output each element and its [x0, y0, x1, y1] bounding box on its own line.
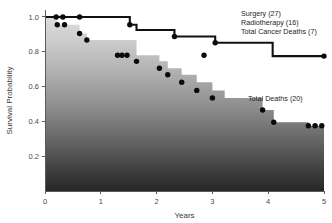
event-marker-dot: [194, 88, 199, 93]
x-tick-label: 0: [43, 197, 47, 206]
x-tick-label: 4: [266, 197, 270, 206]
y-tick-label: 0.8: [29, 47, 39, 56]
event-marker-dot: [260, 107, 265, 112]
annotation-total-deaths: Total Deaths (20): [248, 94, 303, 103]
event-marker-dot: [172, 34, 177, 39]
event-marker-dot: [60, 14, 65, 19]
legend-label-surgery: Surgery (27): [241, 9, 281, 18]
event-marker-dot: [134, 59, 139, 64]
figure-container: 0.20.40.60.81.0 012345 Survival Probabil…: [0, 0, 332, 223]
event-marker-dot: [312, 123, 317, 128]
y-tick-label: 0.4: [29, 117, 39, 126]
event-marker-dot: [77, 14, 82, 19]
y-axis-title: Survival Probability: [5, 66, 14, 134]
event-marker-dot: [306, 123, 311, 128]
x-tick-label: 3: [210, 197, 214, 206]
event-marker-dot: [271, 120, 276, 125]
y-tick-label: 1.0: [29, 13, 39, 22]
event-marker-dot: [165, 72, 170, 77]
event-marker-dot: [77, 31, 82, 36]
event-marker-dot: [53, 14, 58, 19]
x-tick-label: 2: [155, 197, 159, 206]
x-axis-title: Years: [174, 211, 194, 220]
event-marker-dot: [321, 53, 326, 58]
legend-label-total-cancer-deaths: Total Cancer Deaths (7): [241, 27, 317, 36]
event-marker-dot: [157, 66, 162, 71]
event-marker-dot: [84, 37, 89, 42]
y-tick-label: 0.2: [29, 152, 39, 161]
event-marker-dot: [179, 80, 184, 85]
event-marker-dot: [201, 53, 206, 58]
event-marker-dot: [55, 22, 60, 27]
legend-label-radiotherapy: Radiotherapy (16): [241, 18, 299, 27]
event-marker-dot: [127, 22, 132, 27]
event-marker-dot: [124, 53, 129, 58]
event-marker-dot: [210, 95, 215, 100]
event-marker-dot: [62, 22, 67, 27]
survival-curve-chart: 0.20.40.60.81.0 012345 Survival Probabil…: [0, 0, 332, 223]
event-marker-dot: [212, 40, 217, 45]
event-marker-dot: [119, 53, 124, 58]
y-tick-label: 0.6: [29, 82, 39, 91]
x-tick-label: 1: [99, 197, 103, 206]
x-tick-label: 5: [322, 197, 326, 206]
event-marker-dot: [319, 123, 324, 128]
